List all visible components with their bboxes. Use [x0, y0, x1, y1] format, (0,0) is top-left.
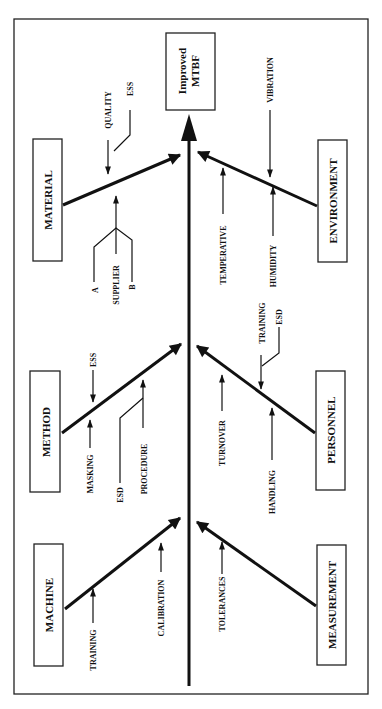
cause-ess: ESS [126, 81, 135, 96]
cause-supplier: SUPPLIER [112, 265, 121, 305]
cause-calibration: CALIBRATION [157, 579, 166, 636]
bone-measurement [197, 522, 316, 606]
category-label-material: MATERIAL [42, 170, 54, 230]
cause-line-ess [114, 110, 130, 151]
cause-quality: QUALITY [104, 91, 113, 129]
category-label-method: METHOD [40, 407, 52, 457]
cause-handling: HANDLING [268, 470, 277, 514]
effect-label-line2: MTBF [189, 55, 201, 87]
category-measurement: MEASUREMENT TOLERANCES [197, 522, 346, 665]
cause-personnel-training: TRAINING [258, 303, 267, 344]
effect-label-line1: Improved [176, 48, 188, 94]
category-label-measurement: MEASUREMENT [326, 560, 338, 649]
category-method: METHOD ESS MASKING ESD PROCEDURE [30, 344, 181, 503]
cause-method-esd: ESD [116, 487, 125, 503]
cause-tolerances: TOLERANCES [218, 576, 227, 632]
category-material: MATERIAL QUALITY ESS SUPPLIER A B [33, 81, 180, 304]
cause-masking: MASKING [86, 454, 95, 493]
cause-machine-training: TRAINING [89, 630, 98, 671]
spine-arrowhead [181, 114, 197, 141]
bone-personnel [197, 346, 315, 433]
category-personnel: PERSONNEL TRAINING ESD TURNOVER HANDLING [197, 303, 345, 514]
bone-material [63, 155, 180, 205]
cause-temperative: TEMPERATIVE [219, 226, 228, 285]
cause-vibration: VIBRATION [266, 57, 275, 103]
category-label-environment: ENVIRONMENT [327, 158, 339, 244]
cause-humidity: HUMIDITY [269, 244, 278, 287]
category-environment: ENVIRONMENT VIBRATION TEMPERATIVE HUMIDI… [198, 57, 347, 287]
cause-turnover: TURNOVER [218, 420, 227, 466]
category-label-machine: MACHINE [43, 578, 55, 632]
fishbone-diagram: Improved MTBF MATERIAL QUALITY ESS SUPPL… [0, 0, 382, 709]
bone-environment [198, 152, 317, 206]
cause-method-ess: ESS [89, 352, 98, 367]
cause-supplier-b: B [128, 284, 137, 290]
bone-method [62, 344, 181, 433]
category-machine: MACHINE TRAINING CALIBRATION [34, 518, 180, 670]
effect-box: Improved MTBF [166, 33, 215, 110]
cause-procedure: PROCEDURE [140, 444, 149, 495]
cause-personnel-esd: ESD [275, 309, 284, 325]
cause-supplier-a: A [91, 287, 100, 293]
diagram-frame [14, 19, 368, 694]
category-label-personnel: PERSONNEL [325, 396, 337, 463]
